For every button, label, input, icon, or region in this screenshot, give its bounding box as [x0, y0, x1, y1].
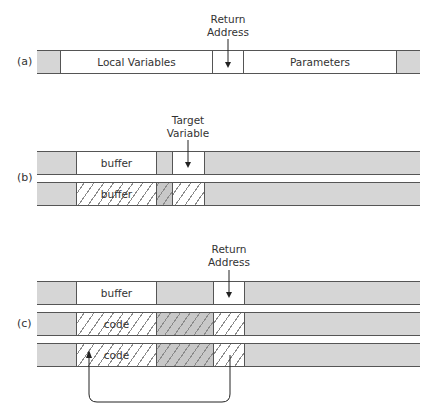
arrowhead-down-icon	[226, 292, 232, 298]
arrows-layer	[0, 0, 433, 413]
arrowhead-down-icon	[225, 62, 231, 68]
arrowhead-down-icon	[185, 162, 191, 168]
arrowhead-up-icon	[86, 350, 92, 358]
